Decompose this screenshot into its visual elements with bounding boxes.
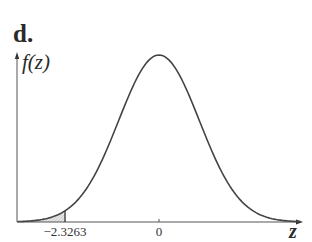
plot-area [0,0,312,242]
panel-label: d. [13,20,33,48]
y-axis-arrow-icon [15,52,19,59]
x-axis-label: z [289,220,297,242]
y-axis-label: f(z) [22,50,50,75]
x-tick-label-zero: 0 [156,224,163,240]
density-curve [18,55,301,222]
normal-distribution-figure: d. f(z) −2.3263 0 z [0,0,312,242]
x-tick-label-critical: −2.3263 [43,224,86,240]
